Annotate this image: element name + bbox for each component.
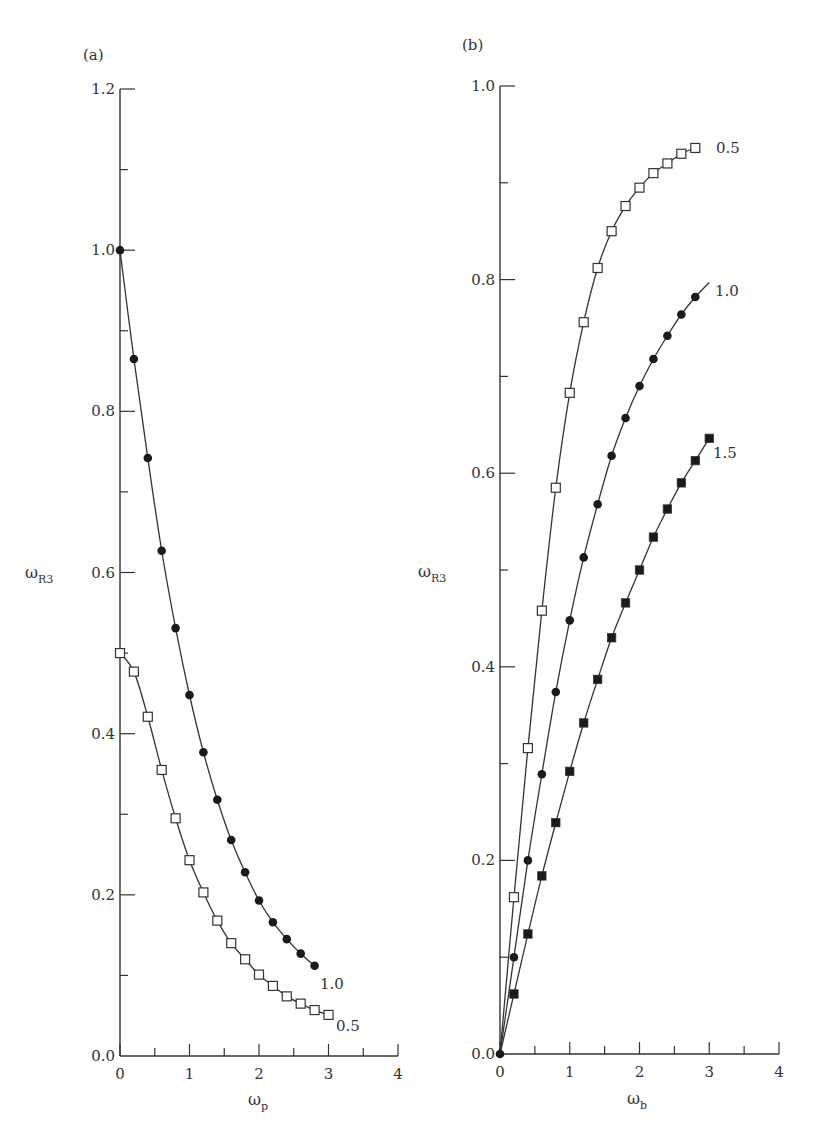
data-point-open-square: [635, 183, 644, 192]
y-tick-label: 0.0: [91, 1047, 115, 1065]
figure: (a) 012340.00.20.40.60.81.01.2 ωR3 ωp 1.…: [0, 0, 814, 1147]
y-tick-label: 0.0: [471, 1045, 495, 1063]
x-tick-label: 3: [324, 1065, 334, 1083]
y-tick-label: 0.6: [471, 464, 495, 482]
data-point-filled-square: [510, 990, 518, 998]
data-point-open-square: [565, 388, 574, 397]
data-point-circle: [144, 454, 153, 463]
data-point-open-square: [523, 744, 532, 753]
data-point-circle: [241, 868, 250, 877]
data-point-circle: [296, 949, 305, 958]
y-tick-label: 0.4: [471, 658, 495, 676]
data-point-circle: [130, 355, 139, 364]
panel-a-markers: [116, 246, 334, 1020]
data-point-open-square: [116, 649, 125, 658]
panel-a-axes: [120, 89, 398, 1056]
data-point-circle: [663, 331, 672, 340]
data-point-filled-square: [621, 599, 629, 607]
data-point-circle: [621, 414, 630, 423]
data-point-filled-square: [593, 675, 601, 683]
panel-b-curve-label-1.5: 1.5: [713, 444, 737, 462]
y-tick-label: 0.2: [91, 886, 115, 904]
data-point-open-square: [157, 765, 166, 774]
x-tick-label: 2: [635, 1063, 645, 1081]
x-tick-label: 2: [254, 1065, 264, 1083]
panel-b-markers: [496, 143, 714, 1058]
data-point-circle: [510, 953, 519, 962]
panel-b-label: (b): [462, 36, 483, 54]
data-point-circle: [213, 795, 222, 804]
data-point-filled-square: [607, 634, 615, 642]
panel-a-tick-labels: 012340.00.20.40.60.81.01.2: [91, 80, 403, 1083]
data-point-circle: [255, 896, 264, 905]
data-point-circle: [199, 748, 208, 757]
data-point-circle: [283, 935, 292, 944]
data-point-circle: [691, 293, 700, 302]
data-point-circle: [157, 546, 166, 555]
y-tick-label: 0.8: [91, 402, 115, 420]
x-tick-label: 3: [704, 1063, 714, 1081]
y-tick-label: 0.4: [91, 725, 115, 743]
data-point-open-square: [129, 667, 138, 676]
y-tick-label: 0.6: [91, 564, 115, 582]
data-point-circle: [524, 856, 533, 865]
data-point-open-square: [677, 149, 686, 158]
panel-a-curve-label-0.5: 0.5: [336, 1017, 360, 1035]
data-point-open-square: [607, 227, 616, 236]
data-point-open-square: [241, 955, 250, 964]
data-point-open-square: [171, 814, 180, 823]
y-tick-label: 0.8: [471, 271, 495, 289]
series-line-0.5: [120, 653, 329, 1015]
panel-a-label: (a): [83, 46, 104, 64]
panel-a-curves: [120, 250, 329, 1015]
data-point-circle: [593, 500, 602, 509]
panel-b-x-axis-label: ωb: [627, 1089, 647, 1112]
data-point-filled-square: [538, 872, 546, 880]
data-point-filled-square: [566, 767, 574, 775]
data-point-circle: [607, 451, 616, 460]
data-point-circle: [310, 961, 319, 970]
data-point-open-square: [310, 1006, 319, 1015]
data-point-open-square: [268, 981, 277, 990]
data-point-circle: [579, 553, 588, 562]
data-point-circle: [649, 355, 658, 364]
panel-a-chart: (a) 012340.00.20.40.60.81.01.2 ωR3 ωp 1.…: [25, 46, 403, 1113]
data-point-open-square: [255, 970, 264, 979]
panel-b-curve-label-0.5: 0.5: [716, 139, 740, 157]
x-tick-label: 1: [185, 1065, 195, 1083]
data-point-filled-square: [524, 930, 532, 938]
y-tick-label: 1.2: [91, 80, 115, 98]
data-point-circle: [635, 382, 644, 391]
data-point-open-square: [649, 169, 658, 178]
data-point-circle: [496, 1050, 505, 1059]
data-point-circle: [227, 836, 236, 845]
data-point-open-square: [143, 712, 152, 721]
data-point-open-square: [663, 159, 672, 168]
data-point-open-square: [296, 999, 305, 1008]
panel-b-y-axis-label: ωR3: [418, 562, 446, 585]
panel-b-curve-label-1.0: 1.0: [715, 282, 739, 300]
data-point-open-square: [185, 856, 194, 865]
panel-a-x-axis-label: ωp: [248, 1090, 268, 1113]
data-point-open-square: [551, 483, 560, 492]
data-point-open-square: [537, 606, 546, 615]
data-point-open-square: [579, 318, 588, 327]
data-point-filled-square: [649, 533, 657, 541]
data-point-open-square: [227, 939, 236, 948]
data-point-circle: [677, 310, 686, 319]
data-point-filled-square: [552, 818, 560, 826]
data-point-filled-square: [677, 479, 685, 487]
data-point-filled-square: [635, 566, 643, 574]
x-tick-label: 4: [393, 1065, 403, 1083]
data-point-open-square: [199, 888, 208, 897]
data-point-open-square: [509, 893, 518, 902]
data-point-circle: [538, 770, 547, 779]
panel-a-curve-label-1.0: 1.0: [320, 975, 344, 993]
data-point-circle: [565, 616, 574, 625]
panel-b-curves: [500, 148, 709, 1054]
x-tick-label: 4: [774, 1063, 784, 1081]
data-point-open-square: [282, 992, 291, 1001]
panel-b-chart: (b) 012340.00.20.40.60.81.0 ωR3 ωb 0.5 1…: [418, 36, 784, 1112]
data-point-circle: [116, 246, 125, 255]
y-tick-label: 1.0: [91, 241, 115, 259]
